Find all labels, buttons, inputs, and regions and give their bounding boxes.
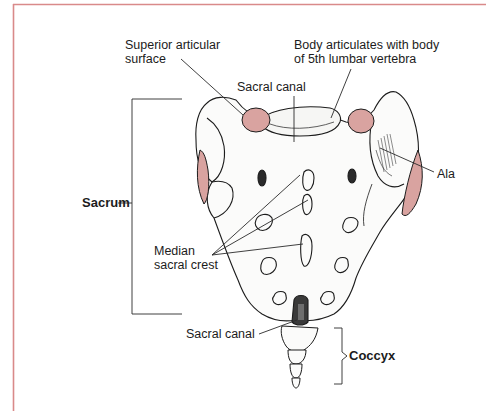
label-median-sacral-crest: Median sacral crest — [154, 244, 218, 272]
leader-body-articulates — [331, 69, 351, 118]
superior-articular-right — [348, 109, 374, 133]
label-line: sacral crest — [154, 258, 218, 272]
label-sacrum: Sacrum — [82, 196, 130, 210]
sacrum-bone — [196, 92, 419, 325]
label-body-articulates: Body articulates with body of 5th lumbar… — [294, 38, 439, 66]
label-line: surface — [125, 52, 220, 66]
label-line: Body articulates with body — [294, 38, 439, 52]
label-sacral-canal-top: Sacral canal — [237, 80, 306, 94]
label-line: Median — [154, 244, 218, 258]
label-line: of 5th lumbar vertebra — [294, 52, 439, 66]
coccyx-bone — [281, 326, 318, 388]
label-superior-articular-surface: Superior articular surface — [125, 38, 220, 66]
label-sacral-canal-bottom: Sacral canal — [186, 327, 255, 341]
label-ala: Ala — [437, 167, 455, 181]
superior-articular-left — [242, 108, 270, 132]
coccyx-brace — [334, 328, 347, 384]
sacrum-diagram: Superior articular surface Body articula… — [0, 0, 486, 411]
label-coccyx: Coccyx — [349, 349, 395, 363]
label-line: Superior articular — [125, 38, 220, 52]
